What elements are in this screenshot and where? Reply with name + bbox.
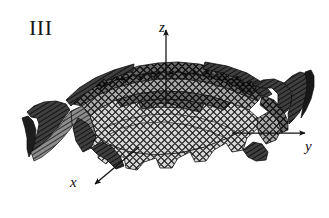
y-axis-label: y xyxy=(305,139,312,154)
z-axis-label: z xyxy=(159,20,165,35)
x-axis-label: x xyxy=(70,175,77,190)
right-front-trough xyxy=(243,142,268,161)
figure-container: III z y x xyxy=(0,0,329,218)
panel-label: III xyxy=(29,17,52,39)
left-wave-lobe xyxy=(22,101,78,161)
